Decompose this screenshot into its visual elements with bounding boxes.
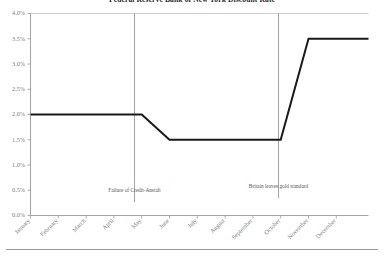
- annotation-gold-standard: Britain leaves gold standard: [249, 183, 309, 189]
- y-tick-label-4: 4.0%: [12, 9, 25, 16]
- x-tick-labels: January February March April May June Ju…: [13, 216, 337, 240]
- y-tick-label-2: 2.0%: [12, 110, 25, 117]
- x-tick-label-may: May: [129, 216, 143, 230]
- x-tick-label-october: October: [262, 217, 281, 236]
- x-tick-label-january: January: [13, 216, 32, 235]
- x-tick-label-december: December: [314, 217, 337, 240]
- x-tick-label-november: November: [286, 217, 309, 240]
- data-series-discount-rate: [31, 39, 369, 140]
- x-tick-label-april: April: [100, 217, 114, 231]
- y-tick-label-3_5: 3.5%: [12, 35, 25, 42]
- y-tick-label-3: 3.0%: [12, 60, 25, 67]
- x-tick-label-february: February: [38, 216, 59, 237]
- footer-divider: [6, 249, 378, 250]
- x-tick-label-july: July: [186, 216, 199, 229]
- x-tick-label-august: August: [208, 217, 226, 235]
- y-tick-label-0: 0.0%: [12, 211, 25, 218]
- y-tick-label-1: 1.0%: [12, 161, 25, 168]
- x-tick-label-june: June: [157, 217, 170, 230]
- x-tick-label-march: March: [70, 216, 87, 233]
- annotation-credit-anstalt: Failure of Credit-Anstalt: [108, 187, 161, 193]
- x-tick-label-september: September: [230, 217, 254, 241]
- y-tick-label-2_5: 2.5%: [12, 85, 25, 92]
- y-tick-label-1_5: 1.5%: [12, 136, 25, 143]
- y-tick-label-0_5: 0.5%: [12, 186, 25, 193]
- chart-plot-area: 4.0% 3.5% 3.0% 2.5% 2.0% 1.5% 1.0% 0.5% …: [0, 0, 384, 259]
- chart-figure: Federal Reserve Bank of New York Discoun…: [0, 0, 384, 259]
